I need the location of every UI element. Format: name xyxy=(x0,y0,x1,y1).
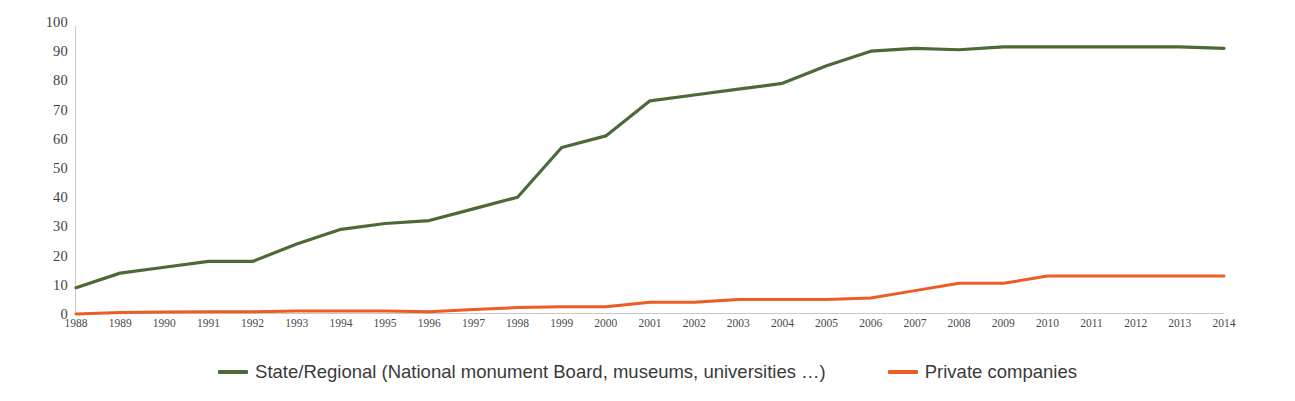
y-tick-label: 100 xyxy=(46,14,68,31)
x-tick-label: 2010 xyxy=(1036,317,1059,329)
x-tick-label: 2012 xyxy=(1124,317,1147,329)
x-tick-label: 2008 xyxy=(948,317,971,329)
y-tick-label: 10 xyxy=(53,276,68,293)
x-tick-label: 2002 xyxy=(683,317,706,329)
x-tick-label: 1994 xyxy=(329,317,352,329)
x-tick-label: 1999 xyxy=(550,317,573,329)
y-tick-label: 80 xyxy=(53,72,68,89)
y-tick-label: 30 xyxy=(53,218,68,235)
x-tick-label: 2011 xyxy=(1080,317,1103,329)
legend-line-swatch-icon xyxy=(888,370,918,374)
series-layer xyxy=(76,47,1224,314)
plot-area xyxy=(76,22,1224,314)
x-tick-label: 2005 xyxy=(815,317,838,329)
y-tick-label: 60 xyxy=(53,130,68,147)
legend-line-swatch-icon xyxy=(218,370,248,374)
x-tick-label: 2003 xyxy=(727,317,750,329)
x-tick-label: 2004 xyxy=(771,317,794,329)
series-line xyxy=(76,276,1224,314)
x-axis-tick-labels: 1988198919901991199219931994199519961997… xyxy=(76,317,1224,337)
x-tick-label: 2007 xyxy=(903,317,926,329)
x-tick-label: 1993 xyxy=(285,317,308,329)
x-tick-label: 1988 xyxy=(65,317,88,329)
x-tick-label: 2006 xyxy=(859,317,882,329)
legend-item-label: State/Regional (National monument Board,… xyxy=(255,363,826,382)
legend-item-label: Private companies xyxy=(925,363,1077,382)
y-tick-label: 20 xyxy=(53,247,68,264)
x-tick-label: 2001 xyxy=(639,317,662,329)
x-tick-label: 1997 xyxy=(462,317,485,329)
series-line xyxy=(76,47,1224,288)
x-tick-label: 2000 xyxy=(594,317,617,329)
y-tick-label: 50 xyxy=(53,160,68,177)
y-axis-tick-labels: 0102030405060708090100 xyxy=(0,22,68,314)
x-tick-label: 2009 xyxy=(992,317,1015,329)
chart-legend: State/Regional (National monument Board,… xyxy=(0,352,1295,392)
x-tick-label: 2014 xyxy=(1213,317,1236,329)
y-tick-label: 70 xyxy=(53,101,68,118)
x-tick-label: 1991 xyxy=(197,317,220,329)
x-tick-label: 2013 xyxy=(1168,317,1191,329)
x-tick-label: 1998 xyxy=(506,317,529,329)
x-tick-label: 1990 xyxy=(153,317,176,329)
line-chart: 0102030405060708090100 19881989199019911… xyxy=(0,0,1295,401)
legend-item[interactable]: Private companies xyxy=(888,363,1077,382)
y-tick-label: 90 xyxy=(53,43,68,60)
x-tick-label: 1989 xyxy=(109,317,132,329)
plot-svg xyxy=(76,22,1224,314)
x-tick-label: 1992 xyxy=(241,317,264,329)
x-tick-label: 1996 xyxy=(418,317,441,329)
y-tick-label: 40 xyxy=(53,189,68,206)
x-tick-label: 1995 xyxy=(374,317,397,329)
legend-item[interactable]: State/Regional (National monument Board,… xyxy=(218,363,826,382)
